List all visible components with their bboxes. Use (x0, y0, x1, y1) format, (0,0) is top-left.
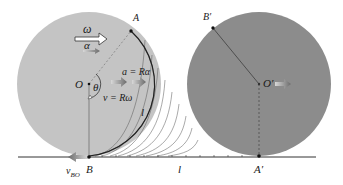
point-A (129, 29, 132, 32)
point-O (88, 83, 91, 86)
label-theta: θ (93, 82, 98, 93)
label-O: O (75, 79, 83, 90)
label-alpha: α (84, 40, 90, 51)
label-velocity: v = Rω (103, 93, 132, 103)
label-Aprime: A′ (254, 164, 263, 175)
label-omega: ω (83, 23, 91, 35)
point-Aprime (257, 154, 261, 158)
point-B (87, 155, 91, 159)
label-A: A (133, 13, 139, 23)
label-ground-distance: l (178, 164, 181, 175)
label-arc-length: l (141, 107, 144, 118)
diagram-canvas (0, 0, 343, 185)
label-acceleration: a = Rα (122, 67, 150, 77)
point-Bprime (211, 26, 214, 29)
label-B: B (86, 164, 93, 175)
label-Oprime: O′ (263, 78, 273, 89)
label-Bprime: B′ (203, 12, 211, 22)
point-Oprime (258, 83, 260, 85)
contact-velocity-subscript: BO (70, 171, 79, 179)
label-contact-velocity: vBO (66, 166, 80, 179)
rolling-wheel-diagram: ω α A O θ a = Rα v = Rω l B vBO l B′ O′ … (0, 0, 343, 185)
